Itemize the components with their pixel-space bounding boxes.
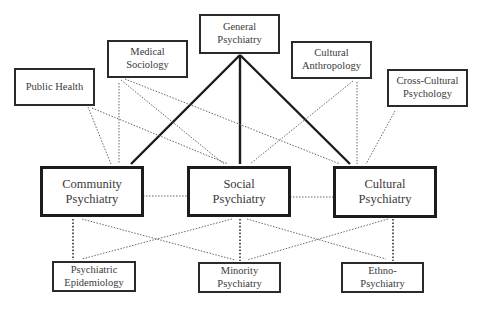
node-label: Psychiatry [359,192,412,207]
edge-crosscultural-cultural [366,111,395,164]
node-cross-cultural-psychology: Cross-CulturalPsychology [387,69,468,107]
node-label: Epidemiology [64,277,124,290]
dotted-edges-upper [88,79,395,164]
node-label: Public Health [26,81,83,94]
node-community-psychiatry: CommunityPsychiatry [40,166,144,217]
node-label: Cross-Cultural [397,75,459,88]
node-ethno-psychiatry: Ethno-Psychiatry [341,262,424,293]
node-medical-sociology: MedicalSociology [107,40,188,78]
dotted-edges-lower [82,219,388,260]
node-minority-psychiatry: MinorityPsychiatry [198,262,281,293]
edge-medsoc-social [121,80,224,164]
node-label: Ethno- [360,265,404,278]
edge-social-epidemiology [82,219,232,259]
node-label: Cultural [359,177,412,192]
node-label: Medical [126,46,169,59]
node-public-health: Public Health [14,68,95,106]
concept-diagram: GeneralPsychiatry MedicalSociology Publi… [0,0,481,309]
edge-social-ethno [247,219,386,259]
node-social-psychiatry: SocialPsychiatry [187,166,291,217]
node-label: Psychiatry [360,278,404,291]
dotted-heavy-edges [73,219,393,261]
edge-community-minority [82,219,235,260]
node-label: Psychiatry [217,278,261,291]
node-label: Psychiatry [62,192,122,207]
node-cultural-psychiatry: CulturalPsychiatry [333,166,437,218]
node-label: Anthropology [302,60,361,73]
node-label: Social [213,177,266,192]
node-general-psychiatry: GeneralPsychiatry [199,14,280,54]
node-label: Psychiatric [64,264,124,277]
node-label: Psychiatry [217,34,261,47]
node-cultural-anthropology: CulturalAnthropology [291,41,372,79]
node-label: Psychiatry [213,192,266,207]
node-label: Minority [217,265,261,278]
node-label: Sociology [126,59,169,72]
node-label: Cultural [302,47,361,60]
node-label: General [217,21,261,34]
node-psychiatric-epidemiology: PsychiatricEpidemiology [52,261,136,292]
node-label: Community [62,177,122,192]
edge-publichealth-community [88,107,111,164]
node-label: Psychology [397,88,459,101]
